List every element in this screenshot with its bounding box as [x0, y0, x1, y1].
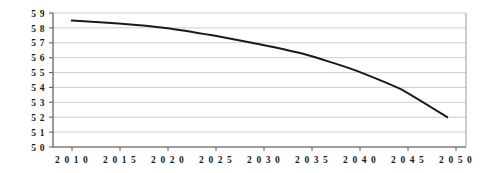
- x-axis-tick-label: 2 0 1 5: [103, 155, 137, 165]
- x-axis-tick-label: 2 0 1 0: [55, 155, 89, 165]
- x-axis-tick-label: 2 0 3 5: [295, 155, 329, 165]
- x-axis-tick-label: 2 0 5 0: [439, 155, 473, 165]
- y-axis-tick-label: 5 3: [31, 98, 45, 108]
- line-chart: 5 95 85 75 65 55 45 35 25 15 0 2 0 1 02 …: [0, 0, 485, 173]
- x-axis-tick-label: 2 0 2 5: [199, 155, 233, 165]
- y-axis-tick-label: 5 4: [31, 83, 45, 93]
- x-axis-tick-label: 2 0 2 0: [151, 155, 185, 165]
- x-axis-labels-group: 2 0 1 02 0 1 52 0 2 02 0 2 52 0 3 02 0 3…: [55, 155, 473, 165]
- y-axis-tick-label: 5 9: [31, 9, 45, 19]
- x-axis-tick-label: 2 0 3 0: [247, 155, 281, 165]
- x-axis-tick-label: 2 0 4 5: [391, 155, 425, 165]
- y-axis-tick-label: 5 5: [31, 68, 45, 78]
- y-axis-tick-label: 5 8: [31, 24, 45, 34]
- chart-canvas: 5 95 85 75 65 55 45 35 25 15 0 2 0 1 02 …: [0, 0, 485, 173]
- y-axis-tick-label: 5 7: [31, 38, 45, 48]
- y-axis-tick-label: 5 1: [31, 128, 45, 138]
- x-axis-tick-label: 2 0 4 0: [343, 155, 377, 165]
- y-axis-tick-label: 5 2: [31, 113, 45, 123]
- y-axis-tick-label: 5 0: [31, 143, 45, 153]
- y-axis-tick-label: 5 6: [31, 53, 45, 63]
